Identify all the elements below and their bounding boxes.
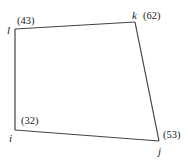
- edge-j-i: [15, 130, 159, 141]
- vertex-i-weight: (32): [21, 115, 39, 127]
- vertex-j-label: j: [156, 145, 161, 157]
- vertex-j-weight: (53): [163, 129, 181, 141]
- vertex-i-label: i: [9, 132, 12, 144]
- quadrilateral-diagram: l (43) k (62) (53) j (32) i: [0, 0, 188, 160]
- vertex-k-weight: (62): [143, 10, 161, 22]
- vertex-k-label: k: [132, 9, 138, 21]
- vertex-l-weight: (43): [17, 15, 35, 27]
- edge-k-j: [135, 22, 159, 141]
- vertex-l-label: l: [7, 24, 10, 36]
